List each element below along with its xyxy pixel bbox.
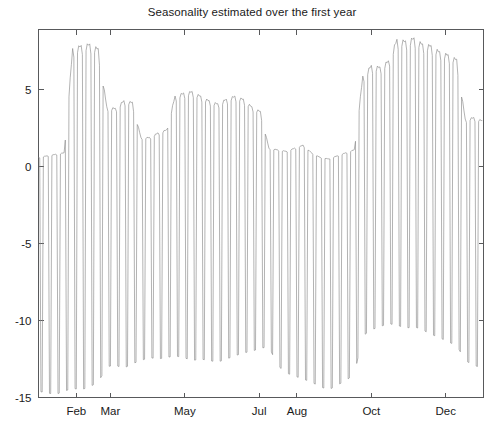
- y-tick-label: -15: [15, 392, 32, 404]
- x-tick-label: Mar: [101, 405, 121, 417]
- chart-figure: Seasonality estimated over the first yea…: [0, 0, 504, 427]
- x-tick-label: Jul: [252, 405, 267, 417]
- y-tick-label: -5: [21, 238, 31, 250]
- y-tick-label: -10: [15, 315, 32, 327]
- chart-title: Seasonality estimated over the first yea…: [0, 6, 504, 18]
- chart-plot-area: 50-5-10-15 FebMarMayJulAugOctDec: [0, 0, 504, 427]
- x-axis-ticks: FebMarMayJulAugOctDec: [66, 30, 456, 417]
- x-tick-label: Feb: [66, 405, 86, 417]
- x-tick-label: Dec: [435, 405, 456, 417]
- series-line-seasonality: [39, 38, 483, 394]
- x-tick-label: Aug: [287, 405, 307, 417]
- y-tick-label: 0: [25, 161, 31, 173]
- x-tick-label: Oct: [362, 405, 381, 417]
- y-tick-label: 5: [25, 84, 31, 96]
- x-tick-label: May: [174, 405, 196, 417]
- axis-frame: [39, 30, 484, 398]
